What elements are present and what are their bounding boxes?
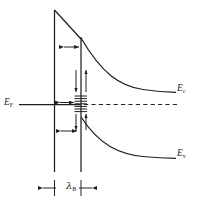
conduction-band-symbol: E [177,83,183,93]
fermi-level-subscript: F [10,101,13,108]
conduction-band-subscript: c [183,87,186,94]
lambda-subscript: B [72,185,76,192]
fermi-level-symbol: E [4,97,10,107]
band-diagram-figure: Ec Ev EF λB [0,0,200,207]
valence-band-subscript: v [183,152,186,159]
conduction-band-curve [81,38,176,92]
band-diagram-svg [0,0,200,207]
interface-states-group [75,96,88,112]
fermi-level-label: EF [4,98,13,108]
valence-band-curve [81,117,176,158]
slanted-vacuum-line [55,10,82,39]
depletion-width-label: λB [66,181,76,191]
valence-band-symbol: E [177,148,183,158]
valence-band-label: Ev [177,149,186,159]
conduction-band-label: Ec [177,84,186,94]
